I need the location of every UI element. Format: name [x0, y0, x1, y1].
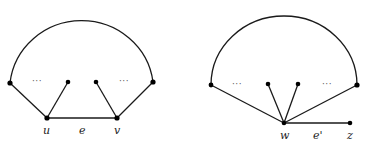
node-v — [114, 115, 119, 120]
node-right-end — [354, 82, 359, 87]
dots-right: ··· — [119, 76, 129, 86]
dots-left: ··· — [32, 76, 42, 86]
node-inner-right — [94, 80, 99, 85]
label-e: e — [79, 124, 86, 137]
label-v: v — [114, 124, 121, 137]
node-z — [348, 121, 353, 126]
node-inner-left — [66, 80, 71, 85]
edge-leftend-w — [211, 85, 284, 123]
edge-innerright-v — [96, 82, 117, 118]
dots-left: ··· — [232, 79, 242, 89]
node-w — [282, 121, 287, 126]
edge-innerleft-w — [268, 84, 284, 123]
right-outer-arc — [211, 16, 357, 85]
graph-figure: ··· ··· u e v ··· ··· w e' z — [0, 0, 366, 147]
node-inner-right — [296, 82, 301, 87]
node-inner-left — [266, 82, 271, 87]
node-u — [44, 115, 49, 120]
label-z: z — [346, 129, 353, 142]
node-left-end — [209, 83, 214, 88]
dots-right: ··· — [322, 79, 332, 89]
left-outer-arc — [10, 21, 153, 83]
right-graph: ··· ··· w e' z — [209, 16, 360, 142]
node-right-end — [150, 79, 155, 84]
node-left-end — [7, 80, 12, 85]
left-graph: ··· ··· u e v — [7, 21, 155, 137]
label-e-prime: e' — [313, 129, 323, 142]
label-u: u — [43, 124, 50, 137]
label-w: w — [280, 129, 290, 142]
edge-leftend-u — [10, 83, 47, 118]
edge-rightend-v — [117, 82, 153, 118]
edge-innerleft-u — [47, 82, 68, 118]
